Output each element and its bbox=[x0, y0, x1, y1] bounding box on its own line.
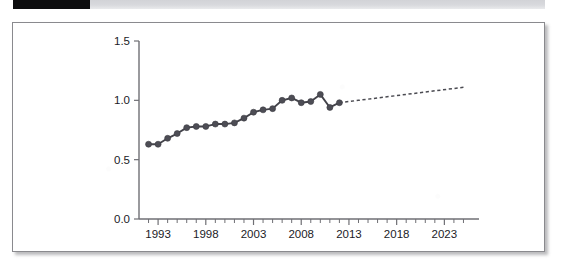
data-point-marker bbox=[155, 141, 161, 147]
y-tick-label: 1.5 bbox=[114, 35, 130, 47]
x-tick-label: 2008 bbox=[288, 228, 314, 240]
data-point-marker bbox=[308, 99, 314, 105]
header-black-block bbox=[13, 0, 90, 9]
x-tick-label: 1993 bbox=[145, 228, 171, 240]
x-tick-label: 2018 bbox=[384, 228, 410, 240]
chart-panel-inner: 0.00.51.01.51993199820032008201320182023 bbox=[13, 23, 544, 251]
data-point-marker bbox=[231, 120, 237, 126]
data-point-marker bbox=[327, 104, 333, 110]
x-tick-label: 2023 bbox=[432, 228, 458, 240]
data-point-marker bbox=[222, 121, 228, 127]
x-tick-label: 2003 bbox=[241, 228, 267, 240]
data-point-marker bbox=[212, 121, 218, 127]
chart-panel: 0.00.51.01.51993199820032008201320182023 bbox=[12, 22, 545, 252]
y-tick-label: 0.0 bbox=[114, 213, 130, 225]
x-tick-label: 2013 bbox=[336, 228, 362, 240]
data-point-marker bbox=[298, 100, 304, 106]
data-point-marker bbox=[279, 97, 285, 103]
data-point-marker bbox=[251, 109, 257, 115]
header-gray-bar bbox=[13, 0, 545, 9]
y-tick-label: 0.5 bbox=[114, 154, 130, 166]
data-point-marker bbox=[203, 123, 209, 129]
header-strip bbox=[0, 0, 561, 12]
data-point-marker bbox=[260, 107, 266, 113]
series-projection-line bbox=[339, 87, 463, 102]
data-point-marker bbox=[241, 115, 247, 121]
y-tick-label: 1.0 bbox=[114, 94, 130, 106]
data-point-marker bbox=[193, 123, 199, 129]
data-point-marker bbox=[184, 125, 190, 131]
data-point-marker bbox=[317, 91, 323, 97]
x-tick-label: 1998 bbox=[193, 228, 219, 240]
data-point-marker bbox=[146, 141, 152, 147]
line-chart: 0.00.51.01.51993199820032008201320182023 bbox=[13, 23, 544, 251]
data-point-marker bbox=[289, 95, 295, 101]
page-root: 0.00.51.01.51993199820032008201320182023 bbox=[0, 0, 561, 268]
data-point-marker bbox=[165, 135, 171, 141]
data-point-marker bbox=[270, 106, 276, 112]
data-point-marker bbox=[174, 131, 180, 137]
